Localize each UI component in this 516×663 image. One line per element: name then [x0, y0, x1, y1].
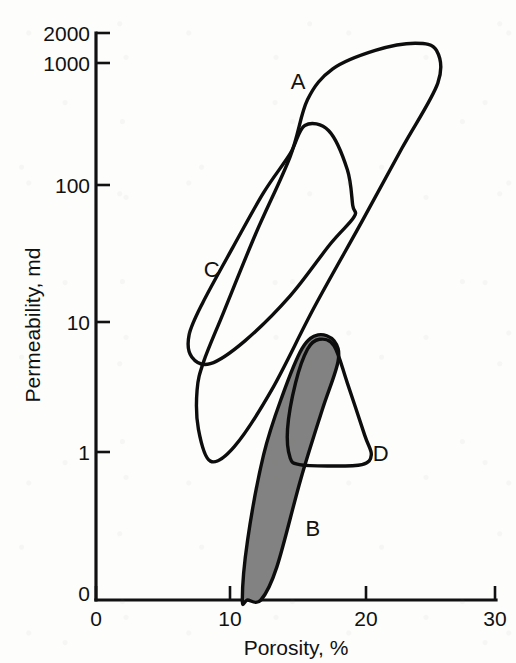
region-b-filled: [242, 335, 338, 605]
y-axis-title: Permeability, md: [21, 248, 44, 403]
y-tick-label-2000: 2000: [43, 22, 90, 45]
x-tick-label-10: 10: [218, 607, 241, 630]
region-label-c: C: [204, 257, 220, 282]
y-tick-label-100: 100: [55, 174, 90, 197]
y-tick-label-0: 0: [78, 582, 90, 605]
x-tick-label-20: 20: [354, 607, 377, 630]
x-axis-title: Porosity, %: [244, 636, 349, 659]
y-tick-label-1: 1: [78, 441, 90, 464]
chart-figure: 2000 1000 100 10 1 0 0 10 20 30 Porosity…: [0, 0, 516, 663]
x-tick-label-30: 30: [483, 607, 506, 630]
region-c-outline: [188, 123, 355, 364]
y-tick-label-10: 10: [67, 311, 90, 334]
y-tick-label-1000: 1000: [43, 52, 90, 75]
x-tick-label-0: 0: [90, 607, 102, 630]
x-tick-marks: [96, 586, 495, 600]
y-tick-marks: [96, 33, 110, 452]
plot-area: 2000 1000 100 10 1 0 0 10 20 30 Porosity…: [0, 0, 516, 663]
region-label-a: A: [291, 69, 306, 94]
region-label-b: B: [305, 516, 320, 541]
region-label-d: D: [373, 441, 389, 466]
